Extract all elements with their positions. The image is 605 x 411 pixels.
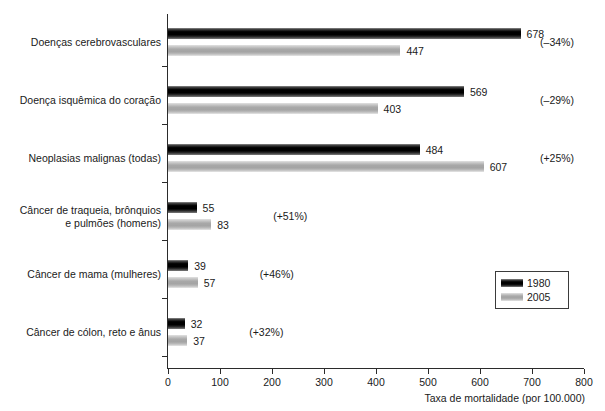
x-axis-tick [480, 369, 481, 374]
bar-2005 [168, 219, 211, 230]
y-axis-tick [162, 240, 168, 241]
legend-box: 1980 2005 [495, 271, 569, 309]
bar-2005 [168, 161, 484, 172]
mortality-rate-bar-chart: 0100200300400500600700800 Taxa de mortal… [0, 0, 605, 411]
bar-1980 [168, 28, 521, 39]
category-label: Câncer de cólon, reto e ânus [26, 326, 161, 339]
legend-swatch-2005-icon [501, 293, 523, 301]
bar-value-label: 403 [384, 103, 402, 115]
category-label: Neoplasias malignas (todas) [29, 152, 161, 165]
percent-change-label: (+51%) [273, 210, 307, 222]
legend-swatch-1980-icon [501, 279, 523, 287]
x-axis-tick [532, 369, 533, 374]
bar-1980 [168, 318, 185, 329]
legend-item-1980: 1980 [501, 277, 550, 289]
y-axis-tick [162, 66, 168, 67]
x-axis-tick [168, 369, 169, 374]
bar-2005 [168, 103, 378, 114]
y-axis-tick [162, 182, 168, 183]
x-axis-tick-label: 600 [471, 376, 489, 388]
y-axis-tick [162, 298, 168, 299]
y-axis-tick [162, 356, 168, 357]
bar-value-label: 37 [193, 335, 205, 347]
bar-value-label: 39 [194, 260, 206, 272]
bar-value-label: 83 [217, 219, 229, 231]
category-label: Câncer de mama (mulheres) [27, 268, 161, 281]
bar-2005 [168, 335, 187, 346]
x-axis-tick [220, 369, 221, 374]
percent-change-label: (–29%) [540, 94, 574, 106]
bar-value-label: 484 [426, 144, 444, 156]
x-axis-tick [324, 369, 325, 374]
bar-value-label: 57 [204, 277, 216, 289]
bar-value-label: 569 [470, 86, 488, 98]
percent-change-label: (+25%) [540, 152, 574, 164]
bar-2005 [168, 45, 400, 56]
category-label: Doença isquêmica do coração [20, 94, 161, 107]
x-axis-tick [428, 369, 429, 374]
legend-label-1980: 1980 [527, 277, 550, 289]
bar-value-label: 447 [406, 45, 424, 57]
x-axis-tick-label: 700 [523, 376, 541, 388]
x-axis-tick-label: 0 [165, 376, 171, 388]
x-axis-tick [376, 369, 377, 374]
percent-change-label: (+32%) [249, 326, 283, 338]
percent-change-label: (–34%) [540, 36, 574, 48]
x-axis-tick-label: 500 [419, 376, 437, 388]
legend-item-2005: 2005 [501, 291, 550, 303]
x-axis-tick [272, 369, 273, 374]
bar-1980 [168, 260, 188, 271]
bar-value-label: 32 [191, 318, 203, 330]
bar-1980 [168, 144, 420, 155]
legend-label-2005: 2005 [527, 291, 550, 303]
y-axis-line [167, 14, 168, 368]
percent-change-label: (+46%) [260, 268, 294, 280]
x-axis-tick-label: 400 [367, 376, 385, 388]
x-axis-tick-label: 100 [211, 376, 229, 388]
x-axis-tick-label: 200 [263, 376, 281, 388]
bar-value-label: 607 [490, 161, 508, 173]
cropped-header-text [430, 0, 605, 2]
x-axis-tick [584, 369, 585, 374]
category-label: Doenças cerebrovasculares [31, 36, 161, 49]
bar-value-label: 55 [203, 202, 215, 214]
bar-1980 [168, 86, 464, 97]
category-label: Câncer de traqueia, brônquios e pulmões … [20, 204, 161, 229]
bar-2005 [168, 277, 198, 288]
x-axis-tick-label: 800 [575, 376, 593, 388]
y-axis-tick [162, 124, 168, 125]
x-axis-tick-label: 300 [315, 376, 333, 388]
x-axis-title: Taxa de mortalidade (por 100.000) [424, 392, 585, 404]
bar-1980 [168, 202, 197, 213]
